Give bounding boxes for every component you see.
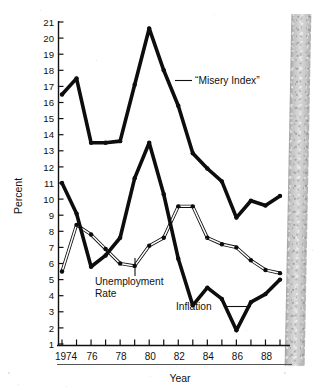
scan-speckle [262, 352, 263, 353]
x-tick-label: 86 [232, 351, 244, 362]
data-point [118, 236, 122, 240]
data-point [74, 76, 78, 80]
y-axis-tick-labels: 123456789101112131415161718192021 [43, 17, 54, 350]
data-point [176, 104, 180, 108]
scan-speckle [284, 372, 286, 374]
data-point [263, 268, 267, 272]
scan-speckle [92, 140, 93, 141]
series-layer [60, 26, 282, 332]
data-point [147, 26, 151, 30]
y-tick-label: 12 [43, 162, 54, 173]
scan-speckle [312, 250, 313, 251]
data-point [205, 285, 209, 289]
data-point [191, 151, 195, 155]
annotation-layer: “Misery Index”UnemploymentRateInflation [95, 75, 260, 312]
y-tick-label: 1 [49, 339, 54, 350]
data-point [249, 199, 253, 203]
scan-speckle [214, 14, 215, 15]
data-point [176, 256, 180, 260]
y-tick-label: 10 [43, 194, 54, 205]
data-point [162, 68, 166, 72]
scan-speckle [96, 60, 97, 61]
data-point [220, 297, 224, 301]
series-line [62, 28, 280, 217]
data-point [132, 176, 136, 180]
data-point [162, 192, 166, 196]
y-tick-label: 14 [43, 129, 54, 140]
y-tick-label: 6 [49, 258, 54, 269]
data-point [162, 236, 166, 240]
data-point [234, 328, 238, 332]
y-tick-label: 3 [49, 306, 54, 317]
data-point [220, 242, 224, 246]
y-tick-label: 21 [43, 17, 54, 28]
data-point [278, 277, 282, 281]
data-point [263, 292, 267, 296]
y-tick-label: 7 [49, 242, 54, 253]
data-point [118, 261, 122, 265]
data-point [234, 245, 238, 249]
misery-index-line-chart: 123456789101112131415161718192021 197476… [0, 0, 329, 391]
data-point [60, 269, 64, 273]
data-point [118, 139, 122, 143]
data-point [60, 181, 64, 185]
y-tick-label: 9 [49, 210, 54, 221]
scan-speckle [246, 330, 247, 331]
scan-speckle [40, 10, 41, 11]
data-point [191, 204, 195, 208]
data-point [147, 141, 151, 145]
x-tick-label: 80 [145, 351, 157, 362]
y-tick-label: 11 [44, 178, 54, 189]
scan-speckle [66, 386, 67, 387]
data-point [60, 92, 64, 96]
y-tick-label: 2 [49, 323, 54, 334]
scan-speckle [176, 366, 177, 367]
x-axis-tick-labels: 197476788082848688 [55, 351, 273, 362]
data-point [176, 204, 180, 208]
y-tick-label: 18 [43, 65, 54, 76]
x-tick-label: 1974 [55, 351, 78, 362]
data-point [89, 141, 93, 145]
data-point [74, 211, 78, 215]
y-tick-label: 8 [49, 226, 54, 237]
data-point [278, 271, 282, 275]
data-point [249, 300, 253, 304]
data-point [103, 253, 107, 257]
x-tick-label: 82 [174, 351, 186, 362]
x-axis-ticks [62, 340, 280, 346]
series-1 [60, 26, 282, 220]
data-point [89, 232, 93, 236]
data-point [220, 179, 224, 183]
data-point [205, 166, 209, 170]
y-tick-label: 19 [43, 49, 54, 60]
chart-container: 123456789101112131415161718192021 197476… [0, 0, 329, 391]
y-tick-label: 15 [43, 113, 54, 124]
series-annotation-label: Rate [95, 288, 117, 299]
scan-speckle [206, 238, 207, 239]
y-axis-title: Percent [12, 178, 24, 214]
x-axis-title: Year [169, 372, 191, 384]
series-annotation-label: “Misery Index” [195, 75, 260, 86]
data-point [249, 258, 253, 262]
scan-speckle [8, 372, 10, 374]
y-tick-label: 4 [49, 290, 55, 301]
data-point [132, 83, 136, 87]
y-tick-label: 20 [43, 33, 54, 44]
x-tick-label: 84 [203, 351, 215, 362]
data-point [89, 265, 93, 269]
x-tick-label: 76 [87, 351, 99, 362]
series-annotation-label: Inflation [176, 301, 212, 312]
scan-speckle [18, 384, 19, 385]
data-point [103, 141, 107, 145]
y-tick-label: 5 [49, 274, 54, 285]
data-point [234, 215, 238, 219]
data-point [278, 194, 282, 198]
scan-speckle [150, 376, 151, 377]
data-point [263, 203, 267, 207]
data-point [147, 244, 151, 248]
series-annotation-label: Unemployment [95, 276, 164, 287]
y-tick-label: 16 [43, 97, 54, 108]
scan-speckle [300, 100, 301, 101]
y-tick-label: 17 [43, 81, 54, 92]
scan-speckle [122, 352, 123, 353]
